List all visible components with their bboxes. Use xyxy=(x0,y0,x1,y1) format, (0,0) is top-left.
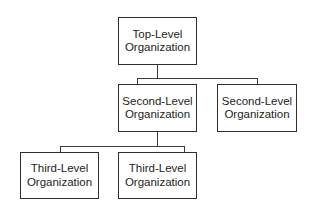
node-label-line1: Third-Level xyxy=(129,162,187,176)
node-label-line2: Organization xyxy=(27,176,92,190)
node-label-line2: Organization xyxy=(125,176,190,190)
node-label-line2: Organization xyxy=(224,108,289,122)
node-label-line2: Organization xyxy=(125,41,190,55)
node-label-line1: Second-Level xyxy=(222,95,292,109)
connector-level2-bar xyxy=(137,78,258,79)
node-third-level-a: Third-Level Organization xyxy=(20,152,99,199)
connector-top-down xyxy=(157,64,158,78)
node-third-level-b: Third-Level Organization xyxy=(118,152,197,199)
node-second-level-b: Second-Level Organization xyxy=(217,84,297,132)
node-label-line2: Organization xyxy=(125,108,190,122)
node-label-line1: Third-Level xyxy=(31,162,89,176)
node-label-line1: Second-Level xyxy=(122,95,192,109)
node-second-level-a: Second-Level Organization xyxy=(118,84,197,132)
connector-second-down xyxy=(157,131,158,146)
node-top-level: Top-Level Organization xyxy=(118,17,197,65)
node-label-line1: Top-Level xyxy=(133,28,183,42)
connector-level3-bar xyxy=(60,146,185,147)
